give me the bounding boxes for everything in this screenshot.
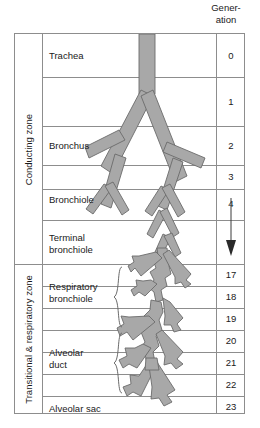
alveolar-duct-branch-right — [156, 330, 183, 369]
generation-value-1: 1 — [217, 96, 245, 107]
row-divider-21-22 — [43, 374, 244, 375]
row-label-bronchus: Bronchus — [49, 140, 89, 152]
airway-generation-table: Conducting zone Transitional & respirato… — [14, 33, 245, 414]
segmental-bronchus-right-a — [145, 186, 169, 216]
lobar-bronchus-left-inner — [101, 154, 126, 208]
lobar-bronchus-left-outer — [85, 130, 125, 158]
bronchiole-right — [160, 208, 179, 237]
row-divider-0-1 — [43, 77, 244, 78]
zone-divider-line — [15, 264, 244, 265]
alveolar-sac-left — [123, 364, 155, 396]
generation-value-18: 18 — [217, 291, 245, 302]
row-divider-4-terminal — [43, 220, 244, 221]
row-divider-19-20 — [43, 330, 244, 331]
generation-value-17: 17 — [217, 269, 245, 280]
alveolated-bud-left-18 — [131, 280, 157, 296]
alveolar-duct-brace — [113, 332, 123, 394]
zone-label-conducting-text: Conducting zone — [23, 113, 34, 184]
bronchiole-left — [147, 210, 166, 238]
row-label-alveolar-duct: Alveolar duct — [49, 347, 83, 370]
segmental-bronchus-left-b — [105, 182, 129, 215]
alveolar-sac-right — [149, 362, 175, 406]
trachea-segment — [139, 34, 155, 94]
row-label-terminal-bronchiole: Terminal bronchiole — [49, 232, 93, 255]
row-label-respiratory-bronchiole: Respiratory bronchiole — [49, 281, 98, 304]
respiratory-bronchiole-brace — [113, 266, 123, 328]
generation-range-arrow-icon — [217, 196, 245, 258]
generation-value-2: 2 — [217, 140, 245, 151]
respiratory-bronchiole-trunk — [149, 248, 173, 302]
row-divider-22-23 — [43, 396, 244, 397]
alveolar-duct-trunk — [139, 300, 163, 364]
terminal-bronchiole-tuft — [155, 234, 171, 256]
respiratory-bronchiole-branch-right — [163, 250, 191, 288]
zone-label-conducting: Conducting zone — [15, 34, 42, 264]
generation-value-3: 3 — [217, 171, 245, 182]
zone-label-transitional-respiratory-text: Transitional & respiratory zone — [23, 275, 34, 403]
row-label-trachea: Trachea — [49, 50, 84, 62]
alveolar-cluster-left — [119, 344, 151, 368]
generation-value-23: 23 — [217, 401, 245, 412]
row-label-alveolar-sac: Alveolar sac — [49, 403, 101, 415]
generation-header-line2: ation — [196, 14, 256, 26]
zone-label-transitional-respiratory: Transitional & respiratory zone — [15, 265, 42, 414]
zone-column-divider — [42, 34, 43, 413]
generation-value-19: 19 — [217, 313, 245, 324]
generation-header-line1: Gener- — [196, 2, 256, 14]
generation-column-header: Gener- ation — [196, 2, 256, 25]
generation-value-22: 22 — [217, 379, 245, 390]
row-divider-1-2 — [43, 126, 244, 127]
row-label-bronchiole: Bronchiole — [49, 194, 94, 206]
alveolated-bud-right-19 — [163, 298, 183, 332]
generation-value-0: 0 — [217, 50, 245, 61]
row-divider-3-4 — [43, 189, 244, 190]
main-bronchus-right — [141, 90, 187, 182]
terminal-bronchiole-tuft-b — [164, 233, 181, 257]
row-divider-18-19 — [43, 308, 244, 309]
generation-value-21: 21 — [217, 357, 245, 368]
generation-value-20: 20 — [217, 335, 245, 346]
alveolar-sac-stem — [145, 358, 159, 370]
main-bronchus-left — [101, 90, 153, 174]
row-divider-2-3 — [43, 165, 244, 166]
